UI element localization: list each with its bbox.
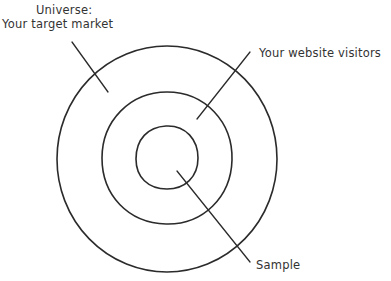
universe-label-line2: Your target market xyxy=(1,17,114,31)
universe-label-line1: Universe: xyxy=(36,3,92,17)
sample-leader-line xyxy=(177,171,250,262)
concentric-diagram: Universe: Your target market Your websit… xyxy=(0,0,391,281)
inner-ring-sample xyxy=(136,126,198,189)
sample-label: Sample xyxy=(256,258,300,272)
outer-ring-universe xyxy=(57,46,277,272)
visitors-label: Your website visitors xyxy=(258,46,381,60)
middle-ring-website-visitors xyxy=(102,92,232,224)
